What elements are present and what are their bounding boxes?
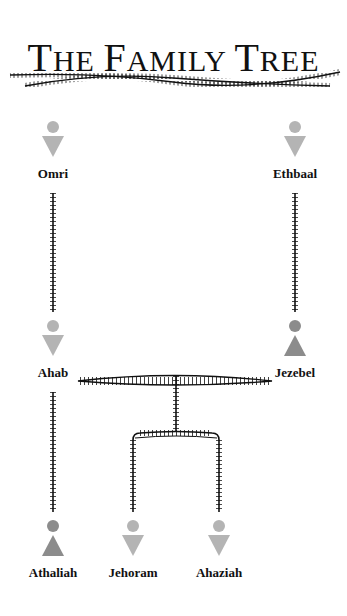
person-jehoram: Jehoram xyxy=(103,519,163,581)
male-icon xyxy=(40,319,66,359)
person-ahab: Ahab xyxy=(23,319,83,381)
person-name: Ethbaal xyxy=(265,166,325,182)
person-name: Omri xyxy=(23,166,83,182)
male-icon xyxy=(282,120,308,160)
person-athaliah: Athaliah xyxy=(23,519,83,581)
male-icon xyxy=(120,519,146,559)
female-icon xyxy=(40,519,66,559)
male-icon xyxy=(40,120,66,160)
person-name: Ahab xyxy=(23,365,83,381)
person-omri: Omri xyxy=(23,120,83,182)
title-flourish xyxy=(10,72,340,86)
person-ahaziah: Ahaziah xyxy=(189,519,249,581)
person-name: Jezebel xyxy=(265,365,325,381)
connector-children-bracket xyxy=(133,432,219,513)
person-name: Ahaziah xyxy=(189,565,249,581)
female-icon xyxy=(282,319,308,359)
male-icon xyxy=(206,519,232,559)
person-jezebel: Jezebel xyxy=(265,319,325,381)
person-name: Athaliah xyxy=(23,565,83,581)
person-ethbaal: Ethbaal xyxy=(265,120,325,182)
person-name: Jehoram xyxy=(103,565,163,581)
